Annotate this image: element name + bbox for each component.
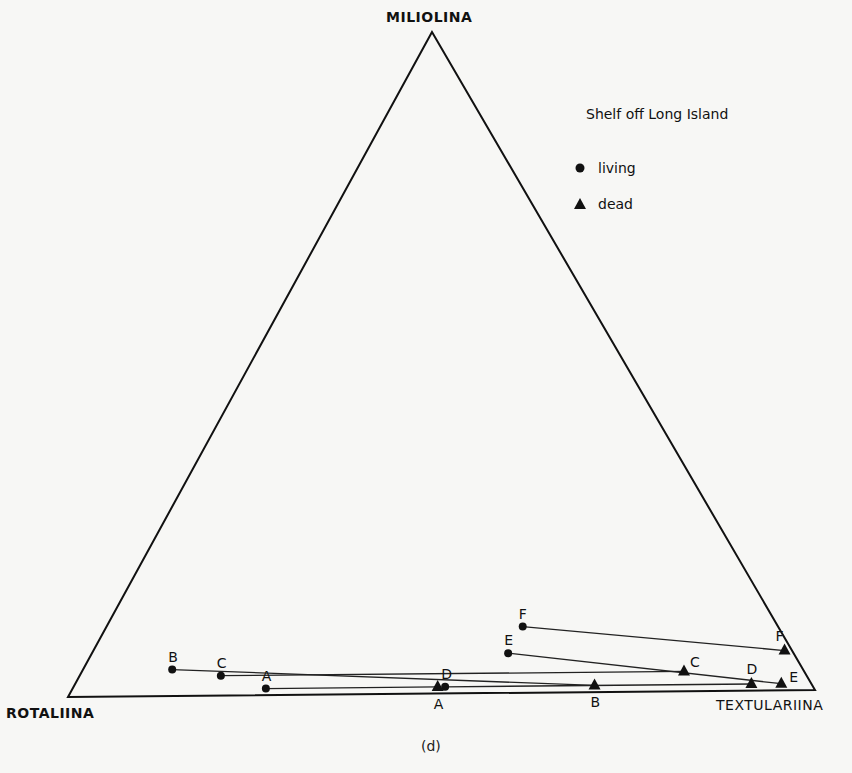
- living-point-e: [504, 649, 512, 657]
- dead-label-e: E: [789, 669, 798, 685]
- left-label-rotaliina: ROTALIINA: [6, 705, 94, 721]
- dead-point-c: [678, 664, 690, 675]
- living-label-d: D: [441, 666, 452, 682]
- connection-line-e: [508, 653, 781, 684]
- living-label-e: E: [504, 632, 513, 648]
- legend-living-label: living: [598, 160, 636, 176]
- right-label-textulariina: TEXTULARIINA: [716, 697, 823, 713]
- dead-point-e: [775, 677, 787, 688]
- dead-label-a: A: [434, 696, 444, 712]
- living-point-c: [217, 672, 225, 680]
- legend-living-marker-icon: [576, 164, 585, 173]
- living-label-c: C: [217, 655, 227, 671]
- connection-line-f: [523, 627, 785, 651]
- legend-item-dead: dead: [598, 196, 633, 212]
- dead-label-f: F: [776, 628, 784, 644]
- dead-point-b: [589, 678, 601, 689]
- living-point-a: [262, 685, 270, 693]
- apex-label-miliolina: MILIOLINA: [386, 9, 472, 25]
- living-label-f: F: [519, 606, 527, 622]
- living-point-f: [519, 623, 527, 631]
- connection-line-b: [172, 670, 594, 686]
- legend-item-living: living: [598, 160, 636, 176]
- dead-label-b: B: [591, 694, 601, 710]
- living-point-b: [168, 666, 176, 674]
- dead-point-d: [745, 677, 757, 688]
- living-label-b: B: [168, 649, 178, 665]
- legend-dead-label: dead: [598, 196, 633, 212]
- connection-line-a: [266, 687, 438, 689]
- figure-caption: (d): [421, 738, 441, 754]
- dead-label-d: D: [746, 661, 757, 677]
- ternary-triangle: [68, 32, 815, 697]
- living-label-a: A: [262, 668, 272, 684]
- dead-label-c: C: [690, 654, 700, 670]
- legend-dead-marker-icon: [574, 198, 586, 209]
- legend-title: Shelf off Long Island: [586, 106, 728, 122]
